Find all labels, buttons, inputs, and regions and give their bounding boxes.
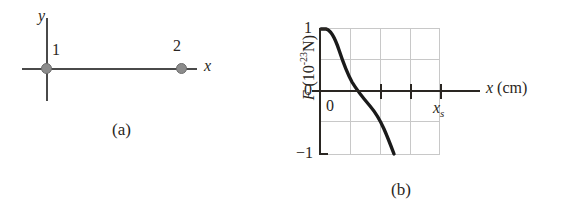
panel-a-diagram: y 1 2 x (a) (0, 0, 290, 213)
panel-b-graph: 1 0 −1 0 xs x (cm) F (10-23N) (b) (290, 0, 572, 213)
panel-b-caption: (b) (391, 180, 411, 200)
unit-prefix: (10 (300, 65, 317, 86)
panel-a-y-axis (46, 18, 48, 101)
x-axis-unit: (cm) (497, 79, 527, 96)
particle-2-dot (176, 63, 187, 74)
particle-1-dot (41, 63, 52, 74)
x-axis-symbol: x (486, 79, 493, 96)
physics-figure: y 1 2 x (a) (0, 0, 572, 213)
y-axis-bottom-cap (319, 153, 328, 155)
panel-b-y-axis-title: F (10-23N) (298, 8, 317, 128)
force-symbol: F (300, 91, 317, 101)
particle-1-label: 1 (52, 42, 60, 58)
y-tick-label-negative-one: −1 (296, 145, 313, 161)
x-axis-tick-2 (410, 84, 412, 99)
particle-2-label: 2 (173, 38, 181, 54)
origin-label: 0 (326, 98, 334, 114)
y-axis-top-cap (319, 28, 328, 30)
panel-a-x-axis-label: x (204, 58, 211, 74)
unit-exponent: -23 (298, 52, 309, 65)
panel-a-y-axis-label: y (38, 8, 45, 24)
panel-b-x-axis (312, 90, 480, 92)
x-axis-tick-1 (380, 84, 382, 99)
panel-b-x-axis-label: x (cm) (486, 80, 527, 96)
panel-a-caption: (a) (112, 120, 131, 140)
x-sub-s-subscript: s (440, 107, 444, 119)
x-sub-s-label: xs (433, 100, 444, 119)
unit-suffix: N) (300, 35, 317, 52)
x-axis-tick-3 (440, 84, 442, 99)
